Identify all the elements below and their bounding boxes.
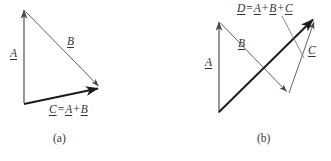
eq-a-plus: + <box>72 103 81 115</box>
panel-b-label-c: C <box>308 45 316 57</box>
eq-a-equals: = <box>57 103 66 115</box>
vector-c-line <box>289 22 314 93</box>
eq-b-equals: = <box>245 2 254 14</box>
eq-a-lhs: C <box>49 103 57 115</box>
panel-b-label-b: B <box>238 38 245 50</box>
eq-a-term2: B <box>81 103 88 115</box>
vector-c-line <box>24 89 98 105</box>
panel-a-caption: (a) <box>53 133 66 145</box>
eq-b-term3: C <box>285 2 293 14</box>
vector-b-line <box>26 12 99 87</box>
panel-a-label-b: B <box>67 36 74 48</box>
panel-a-vector-diagram <box>0 0 165 161</box>
panel-a-label-a: A <box>10 48 17 60</box>
eq-b-plus-2: + <box>276 2 285 14</box>
panel-a: A B C=A+B (a) <box>0 0 165 161</box>
eq-b-term1: A <box>254 2 261 14</box>
panel-b-caption: (b) <box>257 133 270 145</box>
panel-b: D=A+B+C A B C (b) <box>165 0 331 161</box>
panel-b-equation: D=A+B+C <box>237 3 293 15</box>
panel-a-equation: C=A+B <box>49 104 88 116</box>
panel-b-label-a: A <box>205 57 212 69</box>
panel-b-vector-diagram <box>165 0 331 161</box>
vector-b-line <box>221 23 287 92</box>
d-label-leader-line <box>282 16 304 58</box>
vector-addition-figure: A B C=A+B (a) <box>0 0 331 161</box>
